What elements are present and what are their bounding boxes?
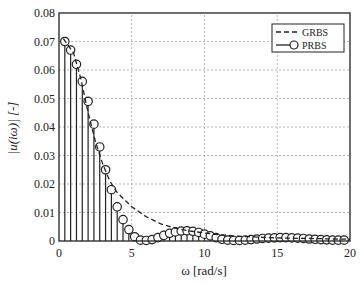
x-tick-label: 15 [271,246,283,260]
x-tick-label: 5 [129,246,135,260]
y-tick-label: 0.07 [34,35,55,49]
x-tick-label: 0 [56,246,62,260]
y-tick-label: 0.08 [34,6,55,20]
prbs-marker [107,186,115,194]
x-tick-label: 10 [199,246,211,260]
y-tick-label: 0.05 [34,92,55,106]
legend: GRBS PRBS [272,24,344,52]
prbs-marker [119,215,127,223]
prbs-marker [125,225,133,233]
y-tick-label: 0.02 [34,177,55,191]
prbs-marker [340,236,348,244]
x-tick-label: 20 [344,246,356,260]
y-axis-label: |u(iω)| [-] [5,102,20,155]
grbs-series [63,39,350,240]
y-tick-label: 0 [49,234,55,248]
y-tick-label: 0.04 [34,120,55,134]
x-axis-label: ω [rad/s] [181,263,227,278]
legend-prbs: PRBS [302,40,326,51]
y-tick-label: 0.01 [34,206,55,220]
prbs-marker [113,203,121,211]
y-tick-label: 0.03 [34,149,55,163]
chart: 00.010.020.030.040.050.060.070.080510152… [0,0,360,284]
legend-grbs: GRBS [302,27,328,38]
y-tick-label: 0.06 [34,63,55,77]
